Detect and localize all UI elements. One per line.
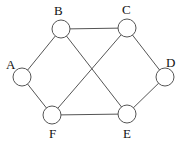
edge-c-f xyxy=(52,28,127,115)
node-c: C xyxy=(118,2,136,37)
node-circle xyxy=(13,68,31,86)
node-d: D xyxy=(156,55,175,86)
edge-b-e xyxy=(61,29,127,114)
node-circle xyxy=(118,105,136,123)
node-e: E xyxy=(118,105,136,141)
node-label: C xyxy=(122,2,131,17)
node-label: D xyxy=(166,55,175,70)
node-label: A xyxy=(6,57,16,72)
node-a: A xyxy=(6,57,31,86)
graph-diagram: ABCDEF xyxy=(0,0,183,141)
edge-e-f xyxy=(52,114,127,115)
node-circle xyxy=(156,68,174,86)
edges xyxy=(22,28,165,115)
node-f: F xyxy=(43,106,61,141)
node-b: B xyxy=(52,3,70,38)
node-label: B xyxy=(54,3,63,18)
node-circle xyxy=(43,106,61,124)
node-label: F xyxy=(49,126,56,141)
node-circle xyxy=(52,20,70,38)
edge-b-c xyxy=(61,28,127,29)
node-circle xyxy=(118,19,136,37)
nodes: ABCDEF xyxy=(6,2,175,141)
node-label: E xyxy=(123,126,131,141)
